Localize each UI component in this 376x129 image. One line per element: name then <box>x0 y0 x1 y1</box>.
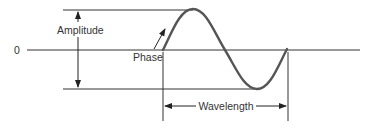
wavelength-label: Wavelength <box>198 100 253 112</box>
phase-arrow <box>154 29 165 49</box>
sine-wave <box>163 9 287 89</box>
amplitude-label: Amplitude <box>57 24 104 36</box>
phase-label: Phase <box>133 51 163 63</box>
zero-label: 0 <box>14 44 20 56</box>
wave-diagram: 0 Amplitude Phase Wavelength <box>0 0 376 129</box>
